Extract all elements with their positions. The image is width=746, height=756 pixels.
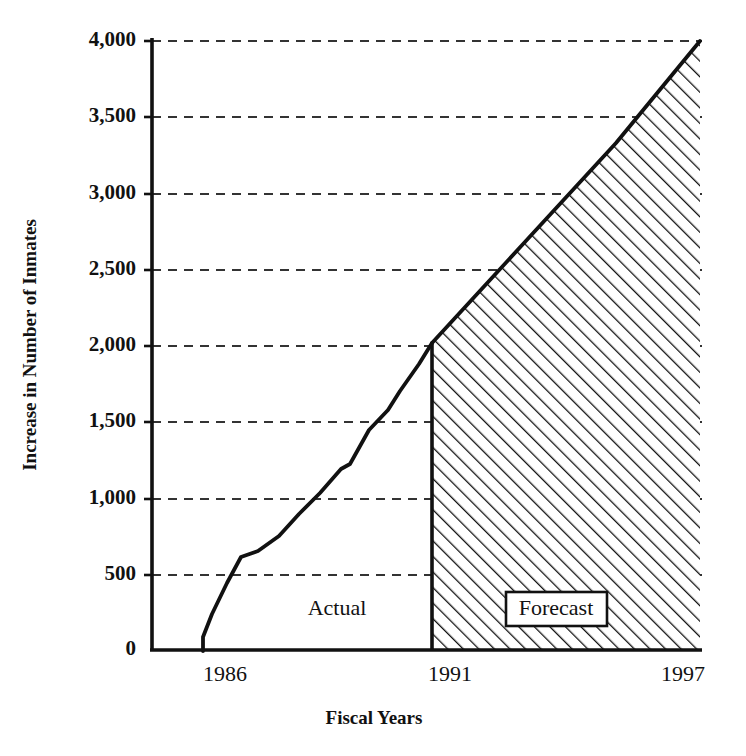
forecast-region-label: Forecast: [519, 595, 594, 620]
y-tick-label-4000: 4,000: [89, 27, 136, 51]
x-axis-title: Fiscal Years: [326, 707, 423, 728]
y-tick-label-0: 0: [126, 636, 137, 660]
y-tick-label-3000: 3,000: [89, 180, 136, 204]
y-tick-label-1000: 1,000: [89, 485, 136, 509]
y-tick-label-3500: 3,500: [89, 103, 136, 127]
y-tick-label-2500: 2,500: [89, 256, 136, 280]
y-tick-label-1500: 1,500: [89, 408, 136, 432]
y-axis-title: Increase in Number of Inmates: [19, 219, 40, 471]
x-tick-label-1997: 1997: [661, 661, 705, 686]
inmate-increase-chart: 4,000 3,500 3,000 2,500 2,000 1,500 1,00…: [0, 0, 746, 756]
forecast-region-label-group: Forecast: [506, 592, 607, 626]
actual-region-label: Actual: [308, 595, 367, 620]
chart-figure: 4,000 3,500 3,000 2,500 2,000 1,500 1,00…: [0, 0, 746, 756]
x-tick-label-1991: 1991: [428, 661, 472, 686]
x-tick-label-1986: 1986: [203, 661, 247, 686]
y-tick-label-500: 500: [105, 561, 137, 585]
y-tick-label-2000: 2,000: [89, 332, 136, 356]
